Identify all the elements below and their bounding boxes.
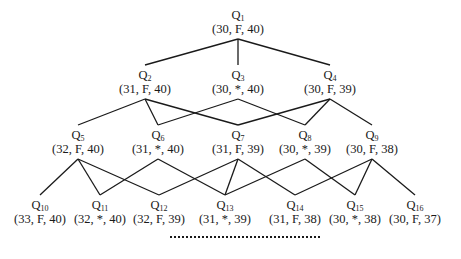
node-tuple: (30, F, 40)	[212, 22, 264, 36]
node-q8: Q8(30, *, 39)	[279, 128, 331, 156]
node-tuple: (30, *, 39)	[279, 142, 331, 156]
node-label: Q3	[212, 68, 264, 82]
node-tuple: (30, F, 39)	[304, 82, 356, 96]
continuation-dotted-line	[170, 236, 320, 238]
node-q5: Q5(32, F, 40)	[52, 128, 104, 156]
edge-q7-q12	[159, 159, 238, 195]
edge-q9-q16	[372, 159, 415, 195]
node-q14: Q14(31, F, 38)	[269, 198, 321, 226]
node-q9: Q9(30, F, 38)	[346, 128, 398, 156]
node-q13: Q13(31, *, 39)	[199, 198, 251, 226]
node-label: Q9	[346, 128, 398, 142]
edge-q4-q9	[330, 99, 372, 125]
node-tuple: (32, F, 40)	[52, 142, 104, 156]
node-tuple: (30, *, 38)	[329, 212, 381, 226]
node-tuple: (31, F, 39)	[212, 142, 264, 156]
edge-q4-q7	[238, 99, 330, 125]
node-tuple: (31, F, 38)	[269, 212, 321, 226]
edge-q9-q15	[355, 159, 372, 195]
node-q16: Q16(30, F, 37)	[389, 198, 441, 226]
node-tuple: (30, F, 38)	[346, 142, 398, 156]
node-tuple: (31, *, 39)	[199, 212, 251, 226]
node-tuple: (31, *, 40)	[132, 142, 184, 156]
edge-q1-q4	[238, 39, 330, 65]
node-q4: Q4(30, F, 39)	[304, 68, 356, 96]
edge-q5-q10	[40, 159, 78, 195]
node-q1: Q1(30, F, 40)	[212, 8, 264, 36]
edge-q8-q15	[305, 159, 355, 195]
edge-q6-q11	[100, 159, 158, 195]
edge-q5-q12	[78, 159, 159, 195]
node-q10: Q10(33, F, 40)	[14, 198, 66, 226]
edge-q2-q6	[145, 99, 158, 125]
node-q15: Q15(30, *, 38)	[329, 198, 381, 226]
node-label: Q4	[304, 68, 356, 82]
edge-q6-q13	[158, 159, 225, 195]
node-label: Q13	[199, 198, 251, 212]
edge-q3-q8	[238, 99, 305, 125]
node-q3: Q3(30, *, 40)	[212, 68, 264, 96]
node-label: Q11	[74, 198, 126, 212]
node-q11: Q11(32, *, 40)	[74, 198, 126, 226]
node-q2: Q2(31, F, 40)	[119, 68, 171, 96]
node-tuple: (32, F, 39)	[133, 212, 185, 226]
node-label: Q1	[212, 8, 264, 22]
edge-q9-q14	[295, 159, 372, 195]
node-label: Q14	[269, 198, 321, 212]
node-q7: Q7(31, F, 39)	[212, 128, 264, 156]
node-label: Q10	[14, 198, 66, 212]
node-tuple: (30, F, 37)	[389, 212, 441, 226]
node-tuple: (32, *, 40)	[74, 212, 126, 226]
node-tuple: (30, *, 40)	[212, 82, 264, 96]
node-label: Q15	[329, 198, 381, 212]
node-label: Q2	[119, 68, 171, 82]
node-q6: Q6(31, *, 40)	[132, 128, 184, 156]
edge-q1-q2	[145, 39, 238, 65]
node-label: Q8	[279, 128, 331, 142]
edge-q2-q5	[78, 99, 145, 125]
node-q12: Q12(32, F, 39)	[133, 198, 185, 226]
node-tuple: (31, F, 40)	[119, 82, 171, 96]
node-label: Q12	[133, 198, 185, 212]
node-label: Q16	[389, 198, 441, 212]
node-label: Q6	[132, 128, 184, 142]
edge-q8-q13	[225, 159, 305, 195]
node-label: Q7	[212, 128, 264, 142]
node-tuple: (33, F, 40)	[14, 212, 66, 226]
node-label: Q5	[52, 128, 104, 142]
